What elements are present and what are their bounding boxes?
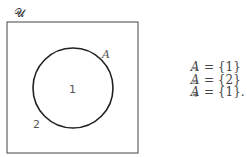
element-outside: 2 [33, 118, 40, 131]
set-symbol: A≋ [190, 86, 200, 99]
equation-rhs: = {1}. [204, 86, 245, 99]
universe-label: 𝒰 [14, 6, 27, 20]
equation-double-complement: A≋ = {1}. [190, 86, 245, 99]
set-a-label: A [101, 48, 110, 61]
tilde-mark: ≋ [190, 91, 200, 99]
equation-rhs: = {1} [204, 61, 241, 74]
element-inside: 1 [69, 83, 76, 96]
set-equations: A~ = {1} A≈ = {2} A≋ = {1}. [190, 61, 245, 99]
